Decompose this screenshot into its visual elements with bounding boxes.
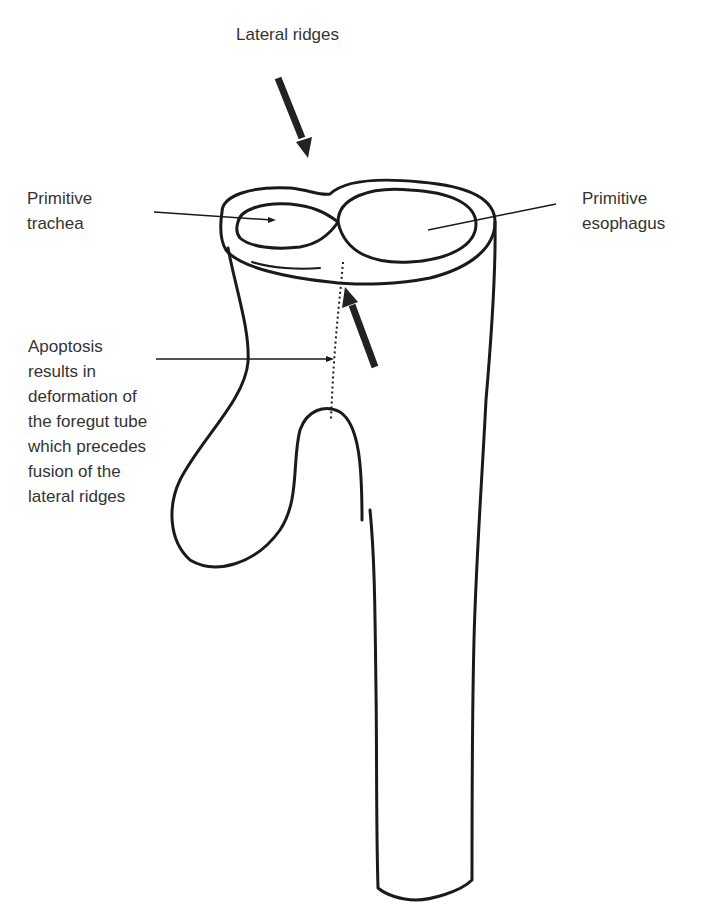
lateral-ridge-arrow-bottom	[352, 305, 375, 367]
primitive-trachea-label: Primitive trachea	[27, 186, 92, 236]
trachea-bud-outline	[172, 248, 362, 567]
lateral-ridge-arrow-top	[278, 78, 302, 138]
apoptosis-label: Apoptosis results in deformation of the …	[28, 334, 147, 509]
lateral-ridge-arrow-top-head	[296, 137, 312, 158]
diagram-canvas: Lateral ridges Primitive trachea Primiti…	[0, 0, 709, 921]
primitive-esophagus-label: Primitive esophagus	[582, 186, 665, 236]
trachea-lumen	[237, 204, 338, 248]
apoptosis-dotted-line	[331, 262, 343, 420]
esophagus-right-wall	[370, 222, 495, 900]
apoptosis-pointer-head	[326, 356, 334, 362]
trachea-pointer	[154, 212, 272, 220]
lateral-ridges-label: Lateral ridges	[236, 22, 339, 47]
trachea-pointer-head	[268, 217, 276, 223]
inner-tube-edge	[252, 262, 320, 269]
esophagus-lumen	[338, 189, 476, 262]
